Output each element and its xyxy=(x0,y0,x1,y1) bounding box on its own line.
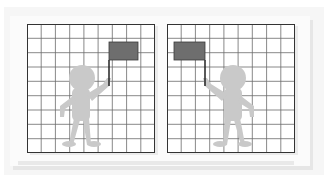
grid-panel-right xyxy=(167,24,295,153)
flag-left xyxy=(109,42,138,60)
grid-right xyxy=(167,24,295,153)
grid-left xyxy=(27,24,155,153)
flag-right xyxy=(174,42,205,60)
frame-shadow xyxy=(18,161,294,165)
grid-panel-left xyxy=(27,24,155,153)
